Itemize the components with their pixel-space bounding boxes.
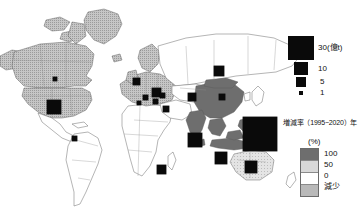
legend-row: 10	[294, 62, 361, 75]
choro-label-decrease: 減少	[324, 181, 340, 192]
choro-label-50: 50	[324, 159, 340, 170]
legend-label-1: 1	[320, 89, 324, 97]
growth-rate-scale: 100 50 0 減少	[300, 148, 340, 197]
legend-square-10	[294, 62, 308, 75]
growth-rate-legend: (%) 100 50 0 減少	[300, 137, 340, 197]
symbol-china	[219, 94, 225, 100]
symbol-south-america	[72, 136, 77, 141]
growth-rate-unit: (%)	[308, 137, 340, 146]
symbol-united-states	[47, 100, 61, 114]
symbol-france	[143, 95, 148, 100]
symbol-indonesia	[215, 152, 227, 164]
choro-band-0	[301, 173, 318, 185]
emission-size-legend: 30(億t) 10 5 1	[288, 36, 361, 99]
symbol-russia	[214, 66, 224, 76]
choro-label-0: 0	[324, 170, 340, 181]
choro-label-100: 100	[324, 148, 340, 159]
choro-band-dec	[301, 185, 318, 196]
symbol-japan-pacific	[243, 117, 277, 151]
legend-row: 1	[299, 89, 361, 97]
symbol-poland	[160, 93, 165, 98]
choro-band-50	[301, 161, 318, 173]
legend-square-30	[288, 36, 314, 60]
symbol-turkey	[163, 106, 169, 112]
legend-square-1	[299, 91, 303, 95]
legend-label-5: 5	[320, 78, 324, 86]
growth-rate-color-bar	[300, 148, 319, 197]
growth-rate-legend-title: 増減率（1995−2020）年	[283, 117, 357, 127]
growth-rate-labels: 100 50 0 減少	[324, 148, 340, 197]
symbol-kazakhstan	[188, 93, 196, 101]
legend-row: 30(億t)	[288, 36, 361, 60]
region-canada	[12, 42, 94, 88]
symbol-uk	[133, 78, 140, 85]
symbol-india	[188, 133, 202, 147]
choro-band-100	[301, 149, 318, 161]
symbol-south-africa	[157, 165, 166, 174]
legend-square-5	[296, 77, 306, 87]
symbol-australia	[245, 161, 257, 173]
legend-label-30: 30(億t)	[318, 44, 342, 52]
symbol-spain	[137, 101, 141, 105]
symbol-italy	[153, 99, 158, 104]
figure-world-co2-map: 30(億t) 10 5 1 増減率（1995−2020）年 (%) 10	[0, 0, 361, 213]
legend-row: 5	[296, 77, 361, 87]
symbol-canada	[53, 77, 57, 81]
legend-label-10: 10	[318, 65, 327, 73]
